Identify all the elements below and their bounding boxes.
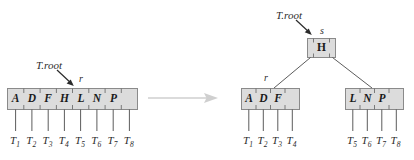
subtree-index: 6 <box>368 140 372 149</box>
after-right-subtree-label-8: T8 <box>391 135 401 149</box>
full-root-key-2: F <box>43 93 54 105</box>
after-left-subtree-label-4: T4 <box>287 135 297 149</box>
figure-canvas: T.root r A D F H L N P T1 T2 T3 T4 T5 T6… <box>0 0 414 160</box>
after-new-root-pointer-label: s <box>320 26 324 36</box>
right-split-key-2: P <box>377 93 388 105</box>
after-root-pointer-arrow <box>296 20 312 35</box>
full-root-key-3: H <box>59 93 70 105</box>
full-root-key-4: L <box>76 93 87 105</box>
before-subtree-label-1: T1 <box>10 135 20 149</box>
after-right-subtree-label-5: T5 <box>347 135 357 149</box>
subtree-index: 4 <box>293 140 297 149</box>
before-root-pointer-arrow <box>57 70 74 86</box>
subtree-index: 8 <box>397 140 401 149</box>
after-right-subtree-label-6: T6 <box>362 135 372 149</box>
full-root-key-0: A <box>10 93 21 105</box>
before-root-pointer-label: T.root <box>36 60 62 71</box>
after-left-subtree-label-3: T3 <box>272 135 282 149</box>
before-subtree-label-7: T7 <box>108 135 118 149</box>
subtree-index: 6 <box>97 140 101 149</box>
transition-arrow <box>148 93 218 103</box>
full-root-key-1: D <box>27 93 38 105</box>
subtree-index: 8 <box>130 140 134 149</box>
edge-root-to-left-child <box>274 58 311 89</box>
right-split-key-1: N <box>362 93 373 105</box>
subtree-index: 4 <box>65 140 69 149</box>
subtree-index: 2 <box>264 140 268 149</box>
before-subtree-label-2: T2 <box>26 135 36 149</box>
before-subtree-label-8: T8 <box>124 135 134 149</box>
after-left-child-pointer-label: r <box>264 73 268 83</box>
subtree-index: 5 <box>81 140 85 149</box>
after-root-pointer-label: T.root <box>276 10 302 21</box>
subtree-index: 7 <box>382 140 386 149</box>
edge-root-to-right-child <box>333 58 373 89</box>
left-split-node-child-stems <box>249 110 292 132</box>
after-right-subtree-label-7: T7 <box>376 135 386 149</box>
before-node-pointer-label: r <box>79 74 83 84</box>
full-root-key-6: P <box>108 93 119 105</box>
right-split-node-child-stems <box>353 110 397 132</box>
right-split-key-0: L <box>348 93 359 105</box>
subtree-index: 3 <box>49 140 53 149</box>
left-split-key-2: F <box>273 93 284 105</box>
tree-edges <box>274 58 372 89</box>
subtree-index: 1 <box>249 140 253 149</box>
subtree-index: 3 <box>278 140 282 149</box>
after-left-subtree-label-1: T1 <box>243 135 253 149</box>
subtree-index: 2 <box>32 140 36 149</box>
new-root-key-0: H <box>315 42 328 54</box>
after-left-subtree-label-2: T2 <box>258 135 268 149</box>
full-root-node-child-stems <box>16 110 130 132</box>
subtree-index: 5 <box>353 140 357 149</box>
left-split-key-1: D <box>258 93 269 105</box>
before-subtree-label-4: T4 <box>59 135 69 149</box>
full-root-key-5: N <box>92 93 103 105</box>
before-subtree-label-3: T3 <box>43 135 53 149</box>
before-subtree-label-5: T5 <box>75 135 85 149</box>
subtree-index: 7 <box>114 140 118 149</box>
before-subtree-label-6: T6 <box>91 135 101 149</box>
left-split-key-0: A <box>244 93 255 105</box>
subtree-index: 1 <box>16 140 20 149</box>
